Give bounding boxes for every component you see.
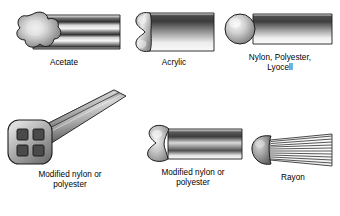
acrylic-label: Acrylic (128, 58, 220, 68)
figure-trilobal: Modified nylon or polyester (138, 122, 248, 188)
acrylic-art (128, 8, 220, 56)
figure-hollow: Modified nylon or polyester (2, 86, 138, 190)
figure-round: Nylon, Polyester, Lyocell (222, 8, 338, 73)
acetate-fiber-icon (2, 8, 126, 56)
round-label: Nylon, Polyester, Lyocell (222, 53, 338, 73)
hollow-art (2, 86, 138, 168)
round-fiber-icon (222, 8, 338, 52)
hollow-label: Modified nylon or polyester (2, 170, 138, 190)
trilobal-art (138, 122, 248, 166)
acrylic-fiber-icon (128, 8, 220, 56)
rayon-art (248, 130, 338, 170)
acetate-label: Acetate (2, 58, 126, 68)
figure-rayon: Rayon (248, 130, 338, 183)
round-art (222, 8, 338, 52)
trilobal-label: Modified nylon or polyester (138, 168, 248, 188)
acetate-art (2, 8, 126, 56)
rayon-label: Rayon (248, 173, 338, 183)
figure-acrylic: Acrylic (128, 8, 220, 68)
rayon-fiber-icon (248, 130, 338, 170)
hollow-fiber-icon (2, 86, 138, 168)
figure-acetate: Acetate (2, 8, 126, 68)
trilobal-fiber-icon (138, 122, 248, 166)
